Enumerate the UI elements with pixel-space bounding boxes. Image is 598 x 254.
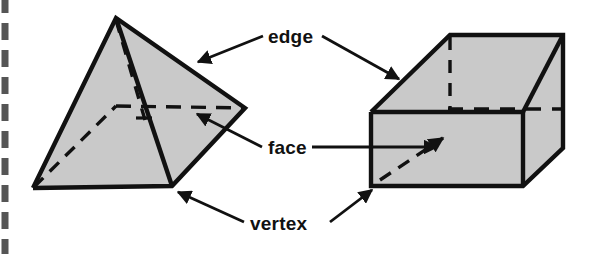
label-vertex: vertex bbox=[250, 214, 307, 233]
prism-front-face bbox=[371, 112, 523, 186]
edge-leader-right bbox=[322, 36, 399, 79]
rectangular-prism bbox=[371, 35, 563, 186]
edge-leader-left bbox=[198, 36, 263, 62]
label-face: face bbox=[268, 138, 307, 157]
square-pyramid bbox=[33, 18, 245, 188]
vertex-leader-right bbox=[330, 190, 372, 222]
label-edge: edge bbox=[268, 27, 313, 46]
vertex-leader-left bbox=[178, 192, 244, 222]
diagram-canvas: edge face vertex bbox=[0, 0, 598, 254]
